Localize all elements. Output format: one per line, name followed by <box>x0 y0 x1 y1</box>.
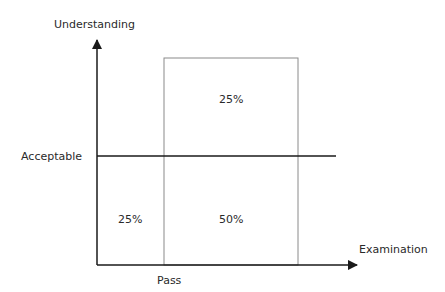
threshold-label: Acceptable <box>21 151 82 162</box>
region-bottom-right-value: 50% <box>219 214 243 225</box>
pass-label: Pass <box>157 275 181 286</box>
x-axis-label: Examination <box>359 244 428 255</box>
region-bottom-left-value: 25% <box>118 214 142 225</box>
pass-region-box <box>164 58 298 265</box>
y-axis-label: Understanding <box>54 19 135 30</box>
region-top-right-value: 25% <box>219 94 243 105</box>
